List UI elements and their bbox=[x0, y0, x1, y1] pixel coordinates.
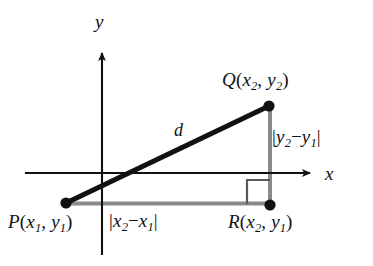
point-q-x: x bbox=[242, 69, 251, 90]
point-p-comma: , bbox=[41, 211, 51, 232]
point-r-y: y bbox=[271, 211, 280, 232]
point-r-paren-close: ) bbox=[286, 211, 293, 232]
delta-x-minus: − bbox=[128, 210, 139, 231]
point-q-name: Q bbox=[222, 69, 236, 90]
delta-x-label: |x2−x1| bbox=[109, 211, 158, 233]
delta-x-bar-close: | bbox=[154, 210, 158, 231]
delta-x-a: x bbox=[113, 210, 122, 231]
point-p-name: P bbox=[8, 211, 20, 232]
delta-y-a: y bbox=[276, 126, 285, 147]
point-q-y: y bbox=[267, 69, 276, 90]
point-r-comma: , bbox=[261, 211, 271, 232]
right-angle-marker bbox=[247, 180, 270, 204]
point-p-label: P(x1, y1) bbox=[8, 212, 73, 234]
y-axis-label: y bbox=[95, 12, 104, 31]
point-q bbox=[263, 100, 274, 111]
point-r-x: x bbox=[246, 211, 255, 232]
point-q-comma: , bbox=[257, 69, 267, 90]
point-p bbox=[60, 197, 71, 208]
point-r-name: R bbox=[228, 211, 240, 232]
point-q-paren-close: ) bbox=[282, 69, 289, 90]
distance-formula-figure: y x d Q(x2, y2) P(x1, y1) R(x2, y1) |x2−… bbox=[0, 0, 373, 266]
delta-y-bar-close: | bbox=[317, 126, 321, 147]
delta-y-minus: − bbox=[291, 126, 302, 147]
x-axis-label: x bbox=[325, 164, 334, 183]
point-p-paren-close: ) bbox=[66, 211, 73, 232]
distance-label: d bbox=[174, 121, 183, 139]
hypotenuse-segment bbox=[66, 106, 269, 203]
point-q-label: Q(x2, y2) bbox=[222, 70, 289, 92]
point-r-label: R(x2, y1) bbox=[228, 212, 293, 234]
point-p-x: x bbox=[26, 211, 35, 232]
point-p-y: y bbox=[51, 211, 60, 232]
point-r bbox=[264, 199, 275, 210]
delta-y-label: |y2−y1| bbox=[272, 127, 321, 149]
